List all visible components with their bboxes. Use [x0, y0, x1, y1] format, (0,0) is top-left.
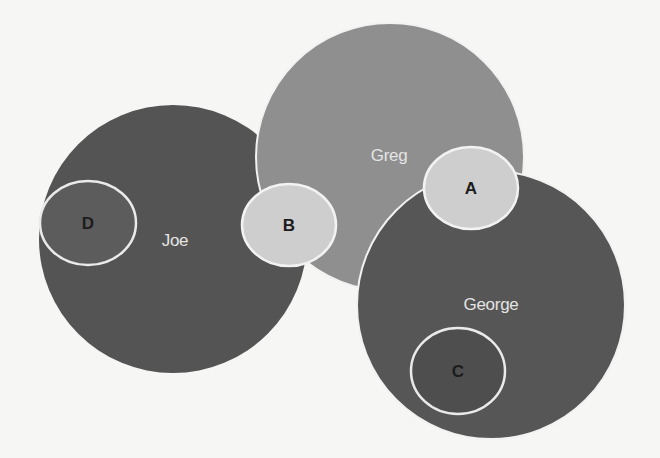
joe-label: Joe [162, 231, 189, 250]
marker-c-label: C [452, 362, 464, 381]
marker-a: A [424, 147, 518, 229]
marker-b-label: B [283, 216, 295, 235]
george-label: George [464, 295, 519, 314]
marker-a-label: A [465, 179, 477, 198]
venn-diagram: Joe Greg George A B C D [0, 0, 660, 458]
marker-b: B [242, 184, 336, 266]
marker-d-label: D [82, 214, 94, 233]
marker-d: D [40, 181, 136, 265]
greg-label: Greg [371, 146, 408, 165]
marker-c: C [411, 328, 505, 414]
